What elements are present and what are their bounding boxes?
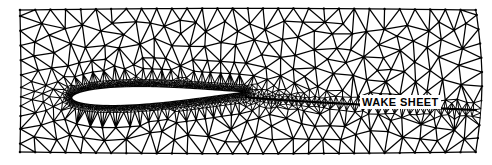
mesh-figure: WAKE SHEET <box>0 0 492 165</box>
mesh-overlay-svg <box>0 0 492 165</box>
annotation-wake-sheet: WAKE SHEET <box>360 95 441 109</box>
